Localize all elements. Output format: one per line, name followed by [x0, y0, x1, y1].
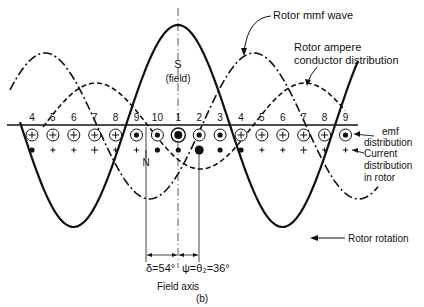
dot-icon: [343, 132, 348, 137]
arrowhead: [179, 253, 184, 257]
conductor-number: 2: [196, 112, 202, 123]
rotor-mmf-pointer: [244, 16, 271, 52]
current-plus-icon: [343, 148, 348, 153]
conductor-number: 1: [176, 112, 182, 123]
conductor-number: 8: [113, 112, 119, 123]
current-plus-icon: [280, 148, 285, 153]
dot-icon: [155, 132, 160, 137]
rotor-ampere-label-2: conductor distribution: [294, 54, 399, 66]
current-dot-icon: [176, 147, 181, 152]
current-dot-icon: [155, 147, 160, 152]
current-label-1: Current: [364, 148, 398, 159]
dot-icon: [174, 131, 182, 139]
conductor-number: 6: [71, 112, 77, 123]
emf-label-2: distribution: [364, 137, 412, 148]
field-axis-label: Field axis: [157, 281, 199, 292]
psi-angle-label: ψ=θ₂=36°: [182, 262, 230, 274]
dot-icon: [218, 132, 223, 137]
current-dot-icon: [218, 147, 223, 152]
conductor-number: 9: [343, 112, 349, 123]
arrowhead: [172, 253, 177, 257]
field-pole-sublabel: (field): [165, 73, 190, 84]
conductor-number: 5: [50, 112, 56, 123]
conductor-number: 9: [134, 112, 140, 123]
conductor-number: 4: [29, 112, 35, 123]
current-plus-icon: [300, 147, 307, 154]
conductor-number: 6: [280, 112, 286, 123]
current-plus-icon: [259, 148, 264, 153]
figure-caption: (b): [196, 293, 208, 304]
rotor-rotation-label: Rotor rotation: [348, 233, 409, 244]
arrowhead: [354, 131, 360, 137]
rotor-ampere-label-1: Rotor ampere: [294, 41, 361, 53]
north-pole-label: N: [142, 157, 149, 168]
conductor-number: 3: [217, 112, 223, 123]
conductor-number: 5: [259, 112, 265, 123]
dot-icon: [134, 132, 139, 137]
current-dot-icon: [29, 147, 34, 152]
current-dot-icon: [238, 147, 243, 152]
arrowhead: [193, 253, 198, 257]
arrowhead: [147, 253, 152, 257]
current-plus-icon: [134, 148, 139, 153]
current-plus-icon: [71, 148, 76, 153]
rotor-mmf-label: Rotor mmf wave: [273, 9, 353, 21]
conductor-number: 10: [152, 112, 164, 123]
arrowhead: [305, 79, 311, 86]
arrowhead: [310, 235, 318, 241]
conductor-number: 8: [322, 112, 328, 123]
emf-label-1: emf: [382, 126, 399, 137]
conductor-number: 4: [238, 112, 244, 123]
conductor-number: 7: [92, 112, 98, 123]
dot-icon: [197, 132, 202, 137]
current-plus-icon: [50, 148, 55, 153]
synchronous-machine-diagram: 45678910123456789 S (field) N δ=54° ψ=θ₂…: [0, 0, 424, 307]
field-pole-label: S: [174, 58, 181, 70]
conductor-number: 7: [301, 112, 307, 123]
delta-angle-label: δ=54°: [146, 262, 175, 274]
current-label-3: in rotor: [364, 172, 396, 183]
rotor-ampere-conductor-wave: [43, 83, 345, 169]
rotor-mmf-wave: [10, 53, 378, 199]
conductor-row: 45678910123456789: [26, 112, 352, 158]
current-label-2: distribution: [364, 160, 412, 171]
current-plus-icon: [91, 147, 98, 154]
